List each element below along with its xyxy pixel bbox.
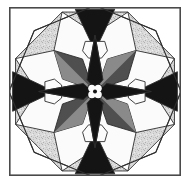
center-pinwheel-core [93,90,97,94]
quilt-block-artwork: Eight-Pointed Star Quilt Block [0,0,194,186]
block-scene [9,6,181,178]
